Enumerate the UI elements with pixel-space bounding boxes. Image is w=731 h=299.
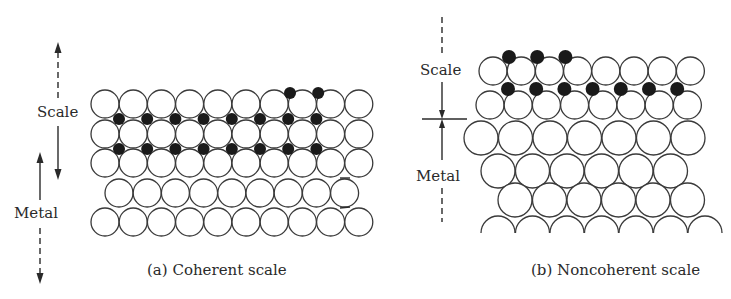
caption-a: (a) Coherent scale xyxy=(147,261,287,279)
metal-atom xyxy=(636,183,670,217)
metal-atom xyxy=(676,57,704,85)
oxygen-atom xyxy=(501,82,515,96)
arrowhead-up-icon xyxy=(55,42,62,53)
arrowhead-down-icon xyxy=(55,169,62,180)
oxygen-atom xyxy=(113,113,125,125)
metal-atom xyxy=(317,208,345,236)
metal-atom xyxy=(481,154,515,188)
metal-atom xyxy=(260,90,288,118)
metal-atom xyxy=(204,90,232,118)
metal-atom xyxy=(345,90,373,118)
metal-atom-partial xyxy=(585,216,619,233)
metal-atom-partial xyxy=(654,216,688,233)
metal-atom xyxy=(345,208,373,236)
metal-atom xyxy=(602,183,636,217)
caption-b: (b) Noncoherent scale xyxy=(531,261,700,279)
arrowhead-down-icon xyxy=(37,273,44,284)
metal-atom xyxy=(533,121,567,155)
metal-atom xyxy=(654,154,688,188)
oxygen-atom xyxy=(254,113,266,125)
metal-atom-partial xyxy=(619,216,653,233)
figure-canvas: Scale Metal (a) Coherent scale Scale M xyxy=(0,0,731,299)
metal-atom xyxy=(567,183,601,217)
metal-atom xyxy=(476,91,504,119)
metal-atom xyxy=(147,120,175,148)
metal-atom xyxy=(105,179,133,207)
scale-label: Scale xyxy=(37,103,78,121)
metal-atom xyxy=(302,179,330,207)
metal-atom xyxy=(190,179,218,207)
metal-atom-partial xyxy=(550,216,584,233)
oxygen-atom xyxy=(502,50,516,64)
metal-atom xyxy=(345,120,373,148)
metal-atom xyxy=(119,120,147,148)
metal-atom xyxy=(585,154,619,188)
metal-atom xyxy=(592,57,620,85)
metal-atom xyxy=(260,208,288,236)
metal-atom xyxy=(288,120,316,148)
metal-atom xyxy=(550,154,584,188)
metal-atom xyxy=(533,183,567,217)
oxygen-atom xyxy=(198,143,210,155)
oxygen-atom xyxy=(198,113,210,125)
metal-atom xyxy=(331,179,359,207)
metal-atom xyxy=(568,121,602,155)
metal-atom xyxy=(317,120,345,148)
arrowhead-down-icon xyxy=(439,110,445,119)
arrowhead-up-icon xyxy=(37,152,44,163)
panel-noncoherent-scale: Scale Metal (b) Noncoherent scale xyxy=(416,17,722,279)
metal-atom xyxy=(671,183,705,217)
metal-label: Metal xyxy=(416,167,460,185)
metal-atom xyxy=(232,208,260,236)
oxygen-atom xyxy=(113,143,125,155)
oxygen-atom xyxy=(614,82,628,96)
metal-atom xyxy=(619,154,653,188)
oxygen-atom xyxy=(670,82,684,96)
oxygen-atom xyxy=(226,113,238,125)
metal-atom xyxy=(648,57,676,85)
metal-atom xyxy=(91,208,119,236)
metal-atom xyxy=(516,154,550,188)
metal-atom xyxy=(499,121,533,155)
panel-coherent-scale: Scale Metal (a) Coherent scale xyxy=(14,42,373,284)
metal-atom xyxy=(345,149,373,177)
metal-atom xyxy=(218,179,246,207)
metal-atom xyxy=(637,121,671,155)
metal-atom xyxy=(288,208,316,236)
metal-atom xyxy=(119,90,147,118)
oxygen-atom xyxy=(169,113,181,125)
oxygen-atom xyxy=(312,87,324,99)
metal-atom-partial xyxy=(516,216,550,233)
metal-atom xyxy=(260,120,288,148)
metal-atom xyxy=(246,179,274,207)
scale-label: Scale xyxy=(420,61,461,79)
oxygen-atom xyxy=(557,82,571,96)
metal-label: Metal xyxy=(14,204,58,222)
metal-atom xyxy=(274,179,302,207)
oxygen-atom xyxy=(558,50,572,64)
metal-atom xyxy=(147,90,175,118)
metal-atom xyxy=(91,90,119,118)
metal-atom xyxy=(317,149,345,177)
oxygen-atom xyxy=(226,143,238,155)
oxygen-atom xyxy=(310,143,322,155)
metal-atom xyxy=(133,179,161,207)
metal-atom xyxy=(602,121,636,155)
metal-atom xyxy=(232,120,260,148)
metal-atom xyxy=(176,208,204,236)
metal-atom xyxy=(479,57,507,85)
oxygen-atom xyxy=(141,143,153,155)
oxygen-atom xyxy=(169,143,181,155)
metal-atom xyxy=(498,183,532,217)
metal-atom xyxy=(232,90,260,118)
metal-atom xyxy=(464,121,498,155)
oxygen-atom xyxy=(529,82,543,96)
metal-atom xyxy=(161,179,189,207)
metal-atom xyxy=(620,57,648,85)
oxygen-atom xyxy=(254,143,266,155)
oxygen-atom xyxy=(586,82,600,96)
oxygen-atom xyxy=(310,113,322,125)
metal-atom xyxy=(91,120,119,148)
metal-atom xyxy=(204,208,232,236)
metal-atom xyxy=(147,208,175,236)
